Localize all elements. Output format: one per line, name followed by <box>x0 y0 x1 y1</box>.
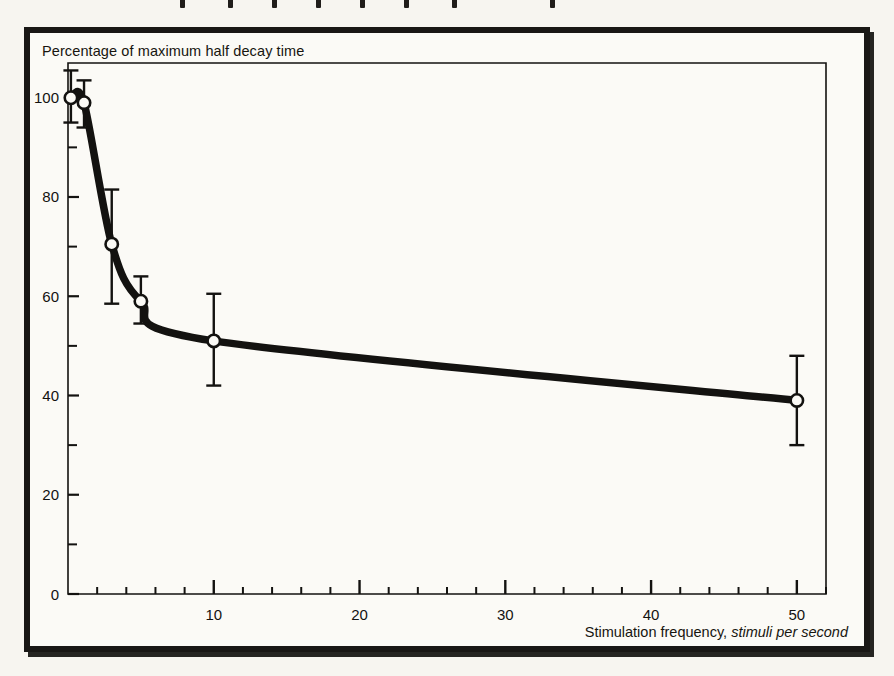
data-point-marker <box>791 394 803 406</box>
data-curve <box>71 92 797 401</box>
scan-artifact-mark <box>272 0 277 8</box>
data-point-marker <box>106 238 118 250</box>
x-axis-label-plain: Stimulation frequency, <box>585 624 727 640</box>
scan-artifact-mark <box>360 0 365 8</box>
data-point-marker <box>78 97 90 109</box>
scan-artifact-mark <box>550 0 555 8</box>
chart-plot-area: 0204060801001020304050 <box>30 33 864 646</box>
x-axis-tick-label: 10 <box>205 606 222 623</box>
scan-artifact-strip <box>0 0 894 22</box>
y-axis-tick-label: 40 <box>42 387 59 404</box>
x-axis-label-italic: stimuli per second <box>727 624 848 640</box>
y-axis-tick-label: 20 <box>42 486 59 503</box>
data-point-marker <box>65 92 77 104</box>
figure-frame: Percentage of maximum half decay time 02… <box>24 27 870 652</box>
x-axis-tick-label: 30 <box>497 606 514 623</box>
x-axis-tick-label: 50 <box>789 606 806 623</box>
y-axis-tick-label: 80 <box>42 188 59 205</box>
scan-artifact-mark <box>228 0 233 8</box>
x-axis-tick-label: 20 <box>351 606 368 623</box>
scan-artifact-mark <box>404 0 409 8</box>
scan-artifact-mark <box>180 0 185 8</box>
data-point-marker <box>135 295 147 307</box>
x-axis-tick-label: 40 <box>643 606 660 623</box>
y-axis-tick-label: 0 <box>51 586 59 603</box>
y-axis-tick-label: 60 <box>42 288 59 305</box>
scan-artifact-mark <box>316 0 321 8</box>
plot-frame <box>68 63 826 594</box>
scan-artifact-mark <box>452 0 457 8</box>
data-point-marker <box>208 335 220 347</box>
x-axis-label: Stimulation frequency, stimuli per secon… <box>585 624 848 640</box>
y-axis-tick-label: 100 <box>34 89 59 106</box>
